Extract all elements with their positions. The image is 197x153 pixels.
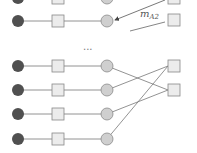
light-node bbox=[101, 84, 113, 96]
square-node bbox=[52, 84, 64, 96]
dark-node bbox=[12, 15, 24, 27]
edge-label: mA2 bbox=[140, 8, 160, 21]
top-row-1 bbox=[12, 0, 113, 4]
right-square-node bbox=[168, 0, 180, 4]
square-node bbox=[52, 133, 64, 145]
light-node bbox=[101, 15, 113, 27]
light-node bbox=[101, 60, 113, 72]
light-node bbox=[101, 133, 113, 145]
edge bbox=[130, 22, 165, 31]
square-node bbox=[52, 15, 64, 27]
right-square-node bbox=[168, 14, 180, 26]
light-node bbox=[101, 0, 113, 4]
square-node bbox=[52, 60, 64, 72]
edge bbox=[107, 66, 168, 139]
ellipsis: ... bbox=[83, 41, 93, 52]
bipartite-graph-diagram: mA2 ... bbox=[0, 0, 197, 153]
dark-node bbox=[12, 133, 24, 145]
top-row-2 bbox=[12, 15, 113, 27]
square-node bbox=[52, 0, 64, 4]
light-node bbox=[101, 108, 113, 120]
bottom-rows bbox=[12, 60, 180, 145]
dark-node bbox=[12, 60, 24, 72]
square-node bbox=[52, 108, 64, 120]
right-square-node bbox=[168, 84, 180, 96]
right-square-node bbox=[168, 60, 180, 72]
dark-node bbox=[12, 108, 24, 120]
dark-node bbox=[12, 84, 24, 96]
dark-node bbox=[12, 0, 24, 4]
